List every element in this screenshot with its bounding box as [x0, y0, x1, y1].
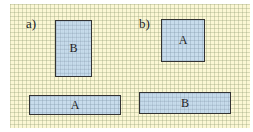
part-b-square-a-label: A [179, 33, 188, 48]
part-b-square-a: A [161, 19, 205, 62]
part-b-rectangle-b: B [139, 92, 231, 114]
part-a-label: a) [26, 16, 36, 32]
part-a-rectangle-a: A [29, 95, 121, 115]
part-a-rectangle-b: B [55, 20, 92, 77]
part-a-rectangle-a-label: A [71, 98, 80, 113]
part-b-rectangle-b-label: B [181, 96, 189, 111]
part-a-rectangle-b-label: B [69, 41, 77, 56]
part-b-label: b) [139, 16, 150, 32]
